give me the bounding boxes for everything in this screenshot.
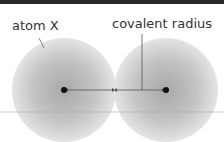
atom-label: atom X	[12, 18, 59, 33]
covalent-radius-label: covalent radius	[112, 16, 212, 31]
nucleus-right	[163, 87, 169, 93]
nucleus-left	[61, 87, 67, 93]
